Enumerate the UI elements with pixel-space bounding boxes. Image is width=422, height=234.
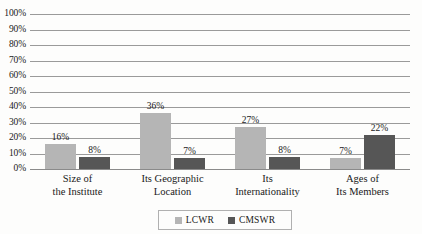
bar-value-label: 16% bbox=[39, 132, 83, 142]
legend-label: LCWR bbox=[186, 215, 214, 225]
y-axis-tick-label: 50% bbox=[0, 87, 26, 97]
legend-swatch-icon bbox=[228, 217, 235, 224]
bar-value-label: 7% bbox=[168, 146, 212, 156]
category-label-line: Internationality bbox=[220, 186, 315, 199]
category-label-line: Its Members bbox=[315, 186, 410, 199]
y-axis-tick-label: 100% bbox=[0, 9, 26, 19]
category-label-line: Its bbox=[262, 173, 273, 184]
legend-swatch-icon bbox=[175, 217, 182, 224]
bar-cmswr bbox=[174, 158, 205, 169]
y-axis-tick-label: 70% bbox=[0, 56, 26, 66]
bar-cmswr bbox=[79, 157, 110, 169]
y-axis-tick-label: 0% bbox=[0, 164, 26, 174]
chart-legend: LCWRCMSWR bbox=[158, 210, 292, 230]
category-label: Size ofthe Institute bbox=[30, 173, 125, 198]
gridline-0 bbox=[30, 169, 410, 170]
category-label: Its GeographicLocation bbox=[125, 173, 220, 198]
y-axis-tick-label: 60% bbox=[0, 71, 26, 81]
bar-lcwr bbox=[235, 127, 266, 169]
bar-value-label: 36% bbox=[134, 101, 178, 111]
bar-chart: 0%10%20%30%40%50%60%70%80%90%100% 16%8%3… bbox=[0, 0, 422, 234]
plot-area: 16%8%36%7%27%8%7%22% bbox=[30, 14, 410, 169]
bar-value-label: 8% bbox=[73, 145, 117, 155]
bar-value-label: 7% bbox=[324, 146, 368, 156]
bar-value-label: 22% bbox=[358, 123, 402, 133]
category-label-line: the Institute bbox=[30, 186, 125, 199]
category-label: Ages ofIts Members bbox=[315, 173, 410, 198]
y-axis-tick-label: 20% bbox=[0, 133, 26, 143]
bar-lcwr bbox=[140, 113, 171, 169]
category-label-line: Size of bbox=[63, 173, 92, 184]
bar-lcwr bbox=[330, 158, 361, 169]
bar-group: 27%8% bbox=[220, 14, 315, 169]
bar-group: 16%8% bbox=[30, 14, 125, 169]
bar-cmswr bbox=[269, 157, 300, 169]
y-axis-tick-label: 30% bbox=[0, 118, 26, 128]
category-label-line: Ages of bbox=[346, 173, 379, 184]
y-axis-tick-label: 90% bbox=[0, 25, 26, 35]
bar-group: 36%7% bbox=[125, 14, 220, 169]
legend-item-cmswr[interactable]: CMSWR bbox=[228, 215, 275, 225]
category-label-line: Location bbox=[125, 186, 220, 199]
bar-cmswr bbox=[364, 135, 395, 169]
category-label-line: Its Geographic bbox=[141, 173, 203, 184]
category-label: ItsInternationality bbox=[220, 173, 315, 198]
legend-label: CMSWR bbox=[239, 215, 275, 225]
bar-lcwr bbox=[45, 144, 76, 169]
legend-item-lcwr[interactable]: LCWR bbox=[175, 215, 214, 225]
bar-value-label: 8% bbox=[263, 145, 307, 155]
y-axis-tick-label: 40% bbox=[0, 102, 26, 112]
y-axis-tick-label: 10% bbox=[0, 149, 26, 159]
bar-group: 7%22% bbox=[315, 14, 410, 169]
bar-value-label: 27% bbox=[229, 115, 273, 125]
y-axis-tick-label: 80% bbox=[0, 40, 26, 50]
